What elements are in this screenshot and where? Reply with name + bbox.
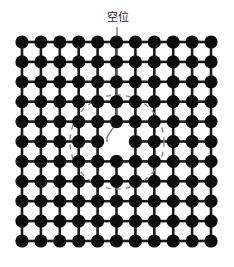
atom-node — [129, 234, 142, 247]
atom-node — [148, 95, 161, 108]
atom-node — [129, 155, 142, 168]
atom-node — [148, 75, 161, 88]
atom-node — [148, 234, 161, 247]
atom-node — [34, 135, 47, 148]
atom-node — [72, 75, 85, 88]
atom-node — [110, 75, 123, 88]
atom-node — [129, 55, 142, 68]
atom-node — [129, 115, 142, 128]
atom-node — [53, 195, 66, 208]
atom-node — [72, 155, 85, 168]
atom-node — [148, 215, 161, 228]
atom-node — [204, 35, 217, 48]
atom-node — [204, 215, 217, 228]
atom-node — [91, 195, 104, 208]
atom-node — [186, 55, 199, 68]
atom-node — [110, 55, 123, 68]
atom-node — [110, 35, 123, 48]
atom-node — [110, 115, 123, 128]
atom-node — [15, 135, 28, 148]
atom-node — [204, 195, 217, 208]
atom-node — [72, 234, 85, 247]
atom-node — [34, 75, 47, 88]
atom-node — [204, 115, 217, 128]
atom-node — [186, 135, 199, 148]
atom-node — [15, 234, 28, 247]
atom-node — [53, 35, 66, 48]
atom-node — [91, 55, 104, 68]
atom-node — [72, 175, 85, 188]
atom-node — [72, 215, 85, 228]
atom-node — [186, 175, 199, 188]
figure-canvas: 空位 — [0, 0, 234, 267]
atom-node — [91, 215, 104, 228]
atom-node — [110, 155, 123, 168]
crystal-lattice-diagram — [0, 0, 234, 267]
atom-node — [148, 155, 161, 168]
atom-node — [53, 215, 66, 228]
atom-node — [204, 175, 217, 188]
atom-node — [148, 135, 161, 148]
atom-node — [129, 75, 142, 88]
atom-node — [148, 55, 161, 68]
atom-node — [167, 175, 180, 188]
atom-node — [186, 195, 199, 208]
atom-node — [53, 75, 66, 88]
atom-node — [167, 135, 180, 148]
atom-node — [129, 215, 142, 228]
atom-node — [110, 234, 123, 247]
atom-node — [129, 135, 142, 148]
atom-node — [53, 175, 66, 188]
atom-node — [204, 95, 217, 108]
atom-node — [167, 55, 180, 68]
atom-node — [91, 95, 104, 108]
atom-node — [129, 35, 142, 48]
atom-node — [186, 215, 199, 228]
atom-node — [15, 155, 28, 168]
atom-node — [34, 234, 47, 247]
atom-node — [167, 234, 180, 247]
atom-node — [167, 75, 180, 88]
atom-node — [204, 55, 217, 68]
atom-node — [15, 115, 28, 128]
atom-node — [53, 234, 66, 247]
atom-node — [34, 175, 47, 188]
atom-node — [15, 95, 28, 108]
atom-node — [15, 35, 28, 48]
atom-node — [72, 35, 85, 48]
atom-node — [72, 195, 85, 208]
atom-node — [110, 95, 123, 108]
atom-node — [34, 195, 47, 208]
atom-node — [34, 215, 47, 228]
atom-node — [186, 95, 199, 108]
atom-node — [129, 175, 142, 188]
atom-node — [148, 115, 161, 128]
atom-node — [204, 75, 217, 88]
atom-node — [53, 95, 66, 108]
atom-node — [34, 55, 47, 68]
atom-node — [15, 55, 28, 68]
atom-node — [53, 115, 66, 128]
atom-node — [186, 115, 199, 128]
atom-node — [72, 135, 85, 148]
atom-node — [204, 155, 217, 168]
atom-node — [72, 95, 85, 108]
atom-node — [167, 95, 180, 108]
atom-node — [91, 75, 104, 88]
atom-node — [167, 155, 180, 168]
atom-node — [15, 175, 28, 188]
atom-node — [15, 215, 28, 228]
atom-node — [186, 75, 199, 88]
atom-node — [186, 35, 199, 48]
atom-node — [148, 175, 161, 188]
atom-node — [186, 234, 199, 247]
atom-node — [34, 115, 47, 128]
vacancy-label: 空位 — [96, 11, 140, 24]
atom-node — [167, 115, 180, 128]
atom-node — [53, 155, 66, 168]
atom-node — [72, 115, 85, 128]
atom-node — [129, 195, 142, 208]
atom-node — [53, 135, 66, 148]
atom-node — [129, 95, 142, 108]
atom-node — [167, 195, 180, 208]
